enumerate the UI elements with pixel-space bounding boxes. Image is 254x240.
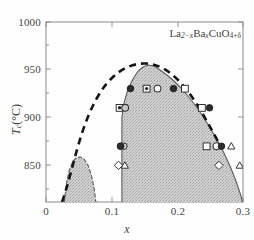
marker-open-square [199,105,206,112]
xtick-label-0.1: 0.1 [105,205,119,217]
formula-sub1: 2−x [181,31,193,40]
formula-el3: CuO [209,27,230,39]
compound-formula-annotation: La2−xBaxCuO4+δ [169,27,241,40]
small-dome-shading [65,157,96,202]
formula-sub3: 4+δ [229,31,241,40]
y-axis-label-symbol: T [9,128,23,135]
y-axis-label-subscript: c [14,125,23,129]
marker-filled-circle [206,105,213,112]
xtick-label-0.3: 0.3 [236,205,250,217]
marker-filled-circle [127,85,134,92]
y-axis-label: Tc(°C) [9,90,24,150]
figure-container: 1000 950 900 850 0 0.1 0.2 0.3 Tc(°C) x … [0,0,254,240]
marker-filled-circle [218,143,225,150]
xtick-label-0: 0 [43,205,49,217]
xtick-label-0.2: 0.2 [171,205,185,217]
ytick-label-950: 950 [0,63,41,75]
ytick-label-850: 850 [0,159,41,171]
marker-filled-circle [170,85,177,92]
y-axis-label-unit: (°C) [9,104,23,125]
marker-open-square [182,85,189,92]
marker-open-square [203,143,210,150]
marker-square-dot [143,85,150,92]
formula-el1: La [169,27,181,39]
formula-el2: Ba [193,27,205,39]
ytick-label-1000: 1000 [0,16,41,28]
marker-open-circle [154,85,161,92]
marker-open-triangle [228,143,235,149]
marker-open-circle [122,104,129,111]
x-axis-label: x [0,222,254,237]
